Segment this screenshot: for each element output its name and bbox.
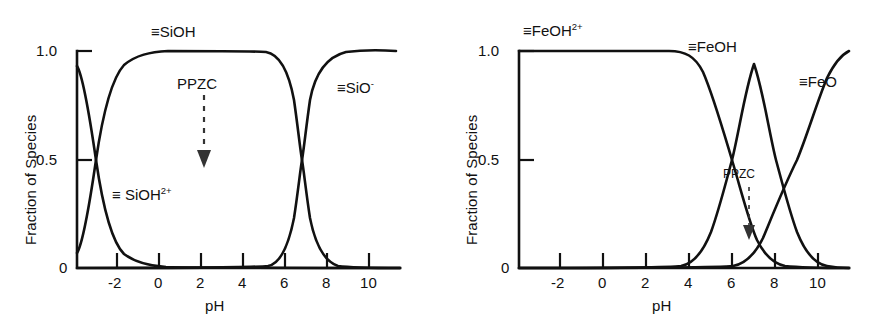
x-axis-title-left: pH [205, 297, 224, 314]
series-label-feOH2plus: ≡FeOH2+ [523, 22, 583, 38]
series-label-siOminus: ≡SiO- [337, 79, 374, 95]
xtick-label-2-left: 2 [196, 274, 204, 291]
curve-feOH [519, 64, 849, 268]
series-label-siOH: ≡SiOH [151, 24, 196, 39]
xtick-label-0-right: 0 [598, 274, 606, 291]
ppzc-label-left: PPZC [177, 75, 217, 92]
ytick-label-0.5-right: 0.5 [478, 151, 499, 168]
xtick-label--2-right: -2 [551, 274, 565, 291]
xtick-label-2-right: 2 [641, 274, 649, 291]
xtick-label-8-left: 8 [322, 274, 330, 291]
xtick-label-10-left: 10 [360, 274, 377, 291]
panel-iron-oxide-speciation: Fraction of Species 1.0 0.5 0 -2 0 2 4 6… [437, 0, 875, 328]
ytick-label-0-right: 0 [501, 259, 509, 276]
xtick-label-0-left: 0 [154, 274, 162, 291]
x-axis-title-right: pH [652, 297, 671, 314]
xtick-label-6-left: 6 [280, 274, 288, 291]
ppzc-label-right: PPZC [723, 167, 755, 181]
panel-silica-speciation: Fraction of Species 1.0 0.5 0 -2 0 2 4 6… [0, 0, 437, 328]
series-label-feOH: ≡FeOH [688, 39, 737, 54]
xtick-label-4-right: 4 [684, 274, 692, 291]
xtick-label-4-left: 4 [238, 274, 246, 291]
ytick-label-1.0-right: 1.0 [478, 42, 499, 59]
y-axis-title-right: Fraction of Species [463, 115, 480, 245]
ytick-label-1.0-left: 1.0 [36, 42, 57, 59]
speciation-figure: Fraction of Species 1.0 0.5 0 -2 0 2 4 6… [0, 0, 875, 328]
xtick-label-10-right: 10 [809, 274, 826, 291]
ytick-label-0-left: 0 [59, 259, 67, 276]
xtick-label-8-right: 8 [770, 274, 778, 291]
xtick-label--2-left: -2 [108, 274, 122, 291]
y-axis-title-left: Fraction of Species [22, 115, 39, 245]
xtick-label-6-right: 6 [727, 274, 735, 291]
ytick-label-0.5-left: 0.5 [36, 151, 57, 168]
series-label-siOH2plus: ≡ SiOH2+ [112, 186, 172, 202]
curve-siOH2plus [77, 66, 400, 268]
ppzc-arrow-left [197, 95, 211, 168]
series-label-feO: ≡FeO [799, 74, 837, 89]
